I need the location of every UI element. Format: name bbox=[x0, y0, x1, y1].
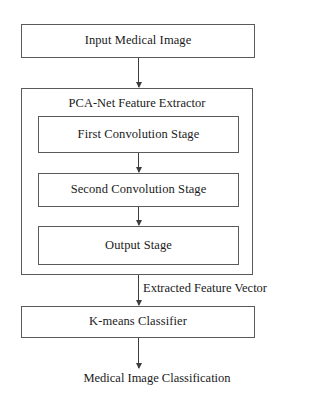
node-first-convolution-stage-label: First Convolution Stage bbox=[78, 128, 200, 142]
edge-label-extracted-feature-vector: Extracted Feature Vector bbox=[143, 281, 267, 296]
node-pca-net-feature-extractor-label: PCA-Net Feature Extractor bbox=[22, 96, 252, 111]
node-medical-image-classification-label: Medical Image Classification bbox=[0, 371, 314, 386]
arrow-second-conv-to-output-stage bbox=[138, 207, 139, 225]
node-first-convolution-stage[interactable]: First Convolution Stage bbox=[38, 116, 239, 153]
node-second-convolution-stage-label: Second Convolution Stage bbox=[71, 183, 207, 197]
node-output-stage[interactable]: Output Stage bbox=[38, 226, 239, 265]
node-k-means-classifier[interactable]: K-means Classifier bbox=[21, 306, 255, 338]
node-input-medical-image[interactable]: Input Medical Image bbox=[21, 24, 255, 58]
arrow-first-conv-to-second-conv bbox=[138, 153, 139, 172]
node-second-convolution-stage[interactable]: Second Convolution Stage bbox=[38, 173, 239, 207]
arrow-pca-net-to-kmeans bbox=[138, 275, 139, 305]
node-output-stage-label: Output Stage bbox=[105, 239, 172, 253]
flowchart-canvas: Input Medical Image PCA-Net Feature Extr… bbox=[0, 0, 314, 408]
arrow-kmeans-to-result bbox=[138, 338, 139, 368]
arrow-input-to-pcanet bbox=[138, 58, 139, 87]
node-k-means-classifier-label: K-means Classifier bbox=[89, 315, 187, 329]
node-input-medical-image-label: Input Medical Image bbox=[85, 34, 192, 48]
